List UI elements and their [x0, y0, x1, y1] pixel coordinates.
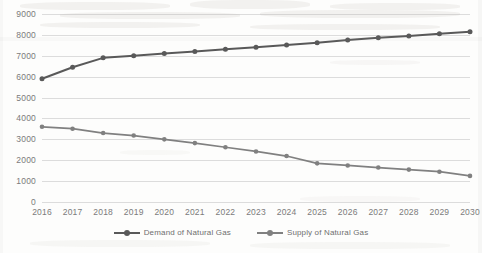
y-axis-tick-label: 3000	[16, 134, 36, 144]
y-axis-tick-label: 0	[31, 197, 36, 207]
data-point[interactable]	[40, 125, 45, 130]
line-chart: 9000800070006000500040003000200010000 20…	[0, 0, 482, 253]
y-axis-tick-label: 8000	[16, 30, 36, 40]
data-point[interactable]	[101, 131, 106, 136]
plot-area: 9000800070006000500040003000200010000 20…	[42, 14, 470, 202]
x-axis-tick-label: 2016	[32, 207, 52, 217]
x-axis-tick-label: 2027	[368, 207, 388, 217]
legend-marker-demand	[114, 228, 140, 237]
data-point[interactable]	[101, 55, 106, 60]
data-series-layer	[42, 14, 470, 202]
legend-marker-supply	[257, 228, 283, 237]
x-axis-tick-label: 2017	[63, 207, 83, 217]
y-axis-tick-label: 7000	[16, 51, 36, 61]
data-point[interactable]	[468, 174, 473, 179]
y-axis-tick-label: 9000	[16, 9, 36, 19]
data-point[interactable]	[376, 165, 381, 170]
data-point[interactable]	[284, 154, 289, 159]
x-axis-tick-label: 2030	[460, 207, 480, 217]
data-point[interactable]	[40, 76, 45, 81]
data-point[interactable]	[345, 163, 350, 168]
data-point[interactable]	[345, 38, 350, 43]
data-point[interactable]	[70, 65, 75, 70]
data-point[interactable]	[315, 161, 320, 166]
x-axis-tick-label: 2028	[399, 207, 419, 217]
x-axis-tick-label: 2029	[430, 207, 450, 217]
legend-label-demand: Demand of Natural Gas	[144, 228, 231, 237]
data-point[interactable]	[223, 145, 228, 150]
chart-legend: Demand of Natural Gas Supply of Natural …	[0, 228, 482, 237]
y-axis-tick-label: 2000	[16, 155, 36, 165]
data-point[interactable]	[284, 42, 289, 47]
data-point[interactable]	[468, 29, 473, 34]
legend-item-supply[interactable]: Supply of Natural Gas	[257, 228, 368, 237]
x-axis-tick-label: 2023	[246, 207, 266, 217]
data-point[interactable]	[406, 33, 411, 38]
x-axis-tick-label: 2018	[93, 207, 113, 217]
data-point[interactable]	[162, 137, 167, 142]
data-point[interactable]	[193, 141, 198, 146]
series-line-demand	[42, 32, 470, 79]
x-axis-tick-label: 2025	[307, 207, 327, 217]
data-point[interactable]	[315, 40, 320, 45]
x-axis-tick-label: 2019	[124, 207, 144, 217]
data-point[interactable]	[254, 149, 259, 154]
y-axis-tick-label: 4000	[16, 113, 36, 123]
y-axis-tick-label: 6000	[16, 72, 36, 82]
x-axis-tick-label: 2024	[277, 207, 297, 217]
gridline	[42, 202, 470, 203]
data-point[interactable]	[437, 31, 442, 36]
data-point[interactable]	[437, 169, 442, 174]
x-axis-tick-label: 2022	[216, 207, 236, 217]
data-point[interactable]	[223, 47, 228, 52]
legend-label-supply: Supply of Natural Gas	[287, 228, 368, 237]
data-point[interactable]	[192, 49, 197, 54]
data-point[interactable]	[131, 133, 136, 138]
data-point[interactable]	[254, 45, 259, 50]
data-point[interactable]	[162, 51, 167, 56]
x-axis-tick-label: 2021	[185, 207, 205, 217]
x-axis-tick-label: 2026	[338, 207, 358, 217]
data-point[interactable]	[70, 126, 75, 131]
data-point[interactable]	[376, 35, 381, 40]
data-point[interactable]	[131, 53, 136, 58]
y-axis-tick-label: 5000	[16, 93, 36, 103]
legend-item-demand[interactable]: Demand of Natural Gas	[114, 228, 231, 237]
data-point[interactable]	[407, 167, 412, 172]
x-axis-tick-label: 2020	[154, 207, 174, 217]
y-axis-tick-label: 1000	[16, 176, 36, 186]
